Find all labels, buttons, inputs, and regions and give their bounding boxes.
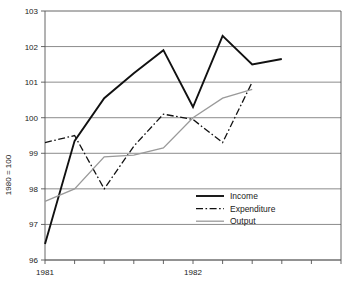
legend-label-output: Output bbox=[230, 216, 256, 226]
y-tick-label-99: 99 bbox=[29, 149, 38, 158]
y-tick-label-98: 98 bbox=[29, 185, 38, 194]
y-tick-label-101: 101 bbox=[25, 78, 39, 87]
y-tick-label-103: 103 bbox=[25, 7, 39, 16]
x-tick-label-1982: 1982 bbox=[184, 268, 202, 277]
x-tick-label-1981: 1981 bbox=[36, 268, 54, 277]
line-chart: 96979899100101102103 19811982 IncomeExpe… bbox=[0, 0, 347, 287]
y-tick-label-97: 97 bbox=[29, 220, 38, 229]
chart-canvas: 96979899100101102103 19811982 IncomeExpe… bbox=[0, 0, 347, 287]
y-tick-label-102: 102 bbox=[25, 43, 39, 52]
legend-label-expenditure: Expenditure bbox=[230, 204, 276, 214]
y-tick-label-96: 96 bbox=[29, 256, 38, 265]
legend-label-income: Income bbox=[230, 191, 258, 201]
y-tick-label-100: 100 bbox=[25, 114, 39, 123]
chart-background bbox=[0, 0, 347, 287]
y-axis-title: 1980 = 100 bbox=[4, 154, 13, 195]
